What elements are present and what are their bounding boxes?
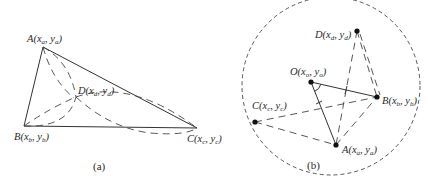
caption-a: (a) [93, 160, 106, 173]
caption-b: (b) [307, 159, 320, 172]
panel-a: A(xa, ya) D(xd, yd) B(xb, yb) C(xc, yc) … [14, 33, 222, 173]
label-d: D(xd, yd) [314, 29, 352, 42]
dashed-arc-b-d-lower [24, 97, 76, 126]
label-c: C(xc, yc) [187, 133, 222, 146]
dashed-arc-b-d-upper [24, 97, 76, 126]
dashed-d-b-1 [357, 31, 377, 97]
panel-b: D(xd, yd) O(xo, yo) B(xb, yb) C(xc, yc) … [242, 0, 420, 175]
dashed-circle [242, 0, 420, 175]
point-b [374, 94, 379, 99]
point-c [252, 119, 257, 124]
label-b: B(xb, yb) [382, 95, 418, 108]
figure: A(xa, ya) D(xd, yd) B(xb, yb) C(xc, yc) … [0, 0, 428, 185]
point-a [333, 142, 338, 147]
label-a: A(xa, ya) [341, 144, 378, 157]
label-b: B(xb, yb) [14, 131, 50, 144]
dashed-arc-a-d-right [43, 47, 76, 97]
point-o [308, 79, 313, 84]
label-o: O(xo, yo) [290, 66, 327, 79]
angle-arc-o [315, 84, 321, 91]
label-d: D(xd, yd) [77, 85, 115, 98]
point-d [354, 28, 359, 33]
dashed-d-b-2 [360, 34, 380, 95]
label-a: A(xa, ya) [26, 33, 63, 46]
segment-o-a [311, 82, 336, 145]
dashed-c-a [255, 122, 336, 145]
label-c: C(xc, yc) [252, 100, 287, 113]
